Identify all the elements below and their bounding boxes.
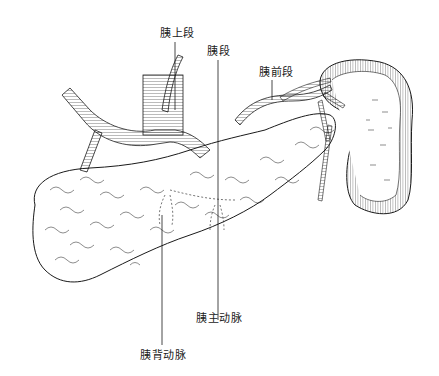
label-segment: 胰段 xyxy=(207,42,230,58)
label-superior-segment: 胰上段 xyxy=(160,24,195,40)
label-anterior-segment: 胰前段 xyxy=(259,63,294,79)
pancreas-diagram: 胰上段 胰段 胰前段 胰主动脉 胰背动脉 xyxy=(0,0,439,376)
label-dorsal-artery: 胰背动脉 xyxy=(140,346,186,362)
label-main-artery: 胰主动脉 xyxy=(196,309,242,325)
